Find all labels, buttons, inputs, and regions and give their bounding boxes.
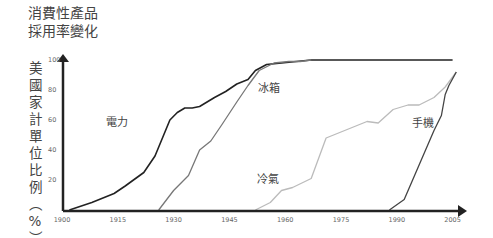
x-tick-label: 1900 <box>54 216 71 224</box>
x-tick-label: 1930 <box>165 216 182 224</box>
series-labels: 電力冰箱冷氣手機 <box>106 81 434 186</box>
series-line-2 <box>255 72 456 210</box>
x-tick-label: 1975 <box>333 216 350 224</box>
x-tick-label: 2005 <box>444 216 461 224</box>
x-tick-label: 1990 <box>389 216 406 224</box>
line-chart: 1900191519301945196019751990200520406080… <box>0 0 493 238</box>
series-label: 手機 <box>412 116 434 130</box>
series-label: 冰箱 <box>258 81 280 95</box>
x-tick-label: 1945 <box>221 216 238 224</box>
series-line-3 <box>389 72 456 210</box>
tick-labels: 1900191519301945196019751990200520406080… <box>48 56 461 224</box>
y-tick-label: 40 <box>48 146 56 154</box>
y-tick-label: 60 <box>48 116 56 124</box>
series-label: 電力 <box>106 116 128 129</box>
x-tick-label: 1915 <box>110 216 127 224</box>
series-label: 冷氣 <box>257 172 279 186</box>
series-line-1 <box>159 60 312 210</box>
y-tick-label: 20 <box>48 176 56 184</box>
x-tick-label: 1960 <box>277 216 294 224</box>
y-tick-label: 80 <box>48 86 56 94</box>
y-tick-label: 100 <box>48 56 60 64</box>
axes <box>57 54 467 217</box>
